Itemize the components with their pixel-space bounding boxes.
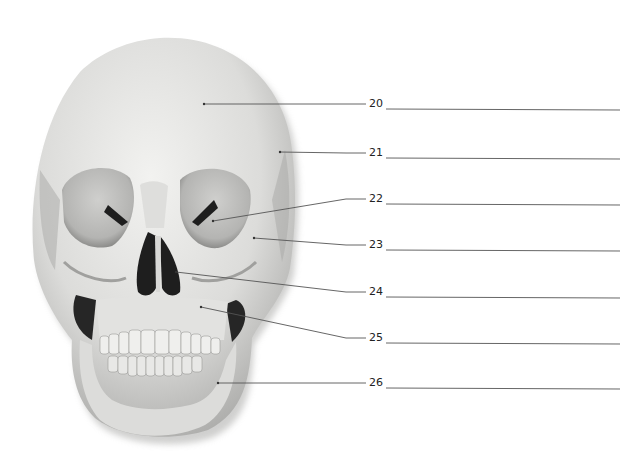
target-dot-23 <box>253 237 255 239</box>
target-dot-20 <box>203 103 205 105</box>
answer-blank-20[interactable] <box>386 109 620 110</box>
answer-blank-26[interactable] <box>386 388 620 389</box>
target-dot-24 <box>175 271 177 273</box>
answer-blank-25[interactable] <box>386 343 620 344</box>
label-number-20: 20 <box>369 97 383 110</box>
target-dot-22 <box>212 220 214 222</box>
skull-diagram: 20212223242526 <box>0 0 644 459</box>
answer-blank-21[interactable] <box>386 158 620 159</box>
label-number-23: 23 <box>369 238 383 251</box>
answer-blanks[interactable] <box>386 109 620 389</box>
cranium <box>33 38 296 437</box>
label-number-22: 22 <box>369 192 383 205</box>
answer-blank-22[interactable] <box>386 204 620 205</box>
label-number-24: 24 <box>369 285 383 298</box>
answer-blank-23[interactable] <box>386 250 620 251</box>
target-dot-21 <box>279 151 281 153</box>
answer-blank-24[interactable] <box>386 297 620 298</box>
target-dot-25 <box>200 306 202 308</box>
lower-teeth <box>108 356 202 376</box>
label-number-25: 25 <box>369 331 383 344</box>
label-number-21: 21 <box>369 146 383 159</box>
skull-illustration <box>0 0 644 459</box>
label-number-26: 26 <box>369 376 383 389</box>
target-dot-26 <box>217 382 219 384</box>
